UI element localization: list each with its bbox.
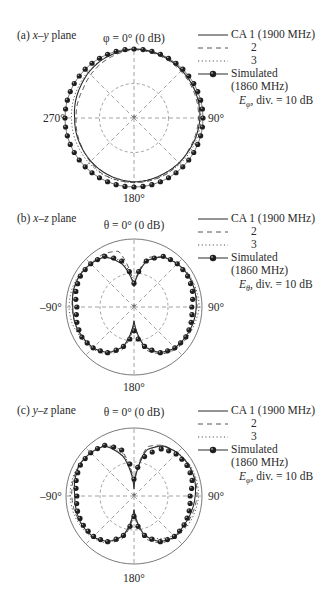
simulated-marker [180, 164, 185, 169]
simulated-marker [95, 446, 100, 451]
simulated-marker [97, 175, 102, 180]
simulated-marker [102, 443, 107, 448]
simulated-marker [68, 142, 73, 147]
legend-simulated-freq: (1860 MHz) [198, 456, 323, 469]
simulated-marker [189, 486, 194, 491]
simulated-marker [105, 179, 110, 184]
simulated-marker [173, 61, 178, 66]
simulated-marker [81, 523, 86, 528]
dotted-line-swatch [198, 432, 228, 442]
simulated-marker [186, 327, 191, 332]
grid-spoke [85, 69, 134, 118]
simulated-marker [78, 273, 83, 278]
simulated-marker [190, 297, 195, 302]
simulated-marker [121, 533, 126, 538]
simulated-marker [105, 539, 110, 544]
simulated-marker [188, 493, 193, 498]
panel-a-xy-plane: * (a) x–y plane φ = 0° (0 dB) 270° 90° 1… [0, 0, 323, 195]
simulated-marker [91, 345, 96, 350]
simulated-marker [186, 73, 191, 78]
simulated-marker [131, 328, 136, 333]
simulated-marker [74, 478, 79, 483]
simulated-marker [152, 255, 157, 260]
simulated-marker [149, 182, 154, 187]
simulated-marker [73, 486, 78, 491]
simulated-marker [165, 348, 170, 353]
simulated-marker [91, 534, 96, 539]
simulated-marker [179, 457, 184, 462]
simulated-marker [119, 258, 124, 263]
simulated-marker [131, 281, 136, 286]
panel-b-title: (b) x–z plane [17, 213, 76, 225]
solid-line-swatch [198, 214, 228, 224]
simulated-marker [191, 81, 196, 86]
svg-text:*: * [132, 303, 136, 312]
simulated-marker [140, 47, 145, 52]
legend-item-3: 3 [198, 54, 323, 67]
simulated-marker [74, 501, 79, 506]
simulated-marker [178, 340, 183, 345]
simulated-marker [72, 81, 77, 86]
legend-item-3: 3 [198, 430, 323, 443]
simulated-marker [105, 350, 110, 355]
simulated-marker [161, 254, 166, 259]
simulated-marker [127, 461, 132, 466]
simulated-marker [63, 106, 68, 111]
simulated-marker [74, 304, 79, 309]
dashed-line-swatch [198, 43, 228, 53]
simulated-marker [74, 320, 79, 325]
simulated-marker [149, 348, 154, 353]
legend-item-2: 2 [198, 41, 323, 54]
simulated-marker [102, 254, 107, 259]
legend-scale-note: Eφ, div. = 10 dB [198, 469, 323, 484]
simulated-marker [158, 539, 163, 544]
simulated-marker [127, 524, 132, 529]
series-dashed [76, 50, 199, 183]
simulated-marker [75, 470, 80, 475]
simulated-marker [127, 269, 132, 274]
simulated-marker [149, 537, 154, 542]
legend-simulated-freq: (1860 MHz) [198, 80, 323, 93]
panel-b-left-angle-label: –90° [40, 302, 62, 314]
simulated-marker [149, 49, 154, 54]
simulated-marker [76, 327, 81, 332]
simulated-marker [172, 534, 177, 539]
simulated-marker [131, 514, 136, 519]
panel-c-yz-plane: * (c) y–z plane θ = 0° (0 dB) –90° 90° 1… [0, 395, 323, 602]
legend-item-ca1: CA 1 (1900 MHz) [198, 212, 323, 225]
simulated-marker [142, 533, 147, 538]
dotted-line-swatch [198, 56, 228, 66]
simulated-marker [173, 451, 178, 456]
simulated-marker [83, 67, 88, 72]
simulated-marker [68, 89, 73, 94]
legend-item-ca1: CA 1 (1900 MHz) [198, 28, 323, 41]
simulated-marker [136, 269, 141, 274]
legend-item-3: 3 [198, 238, 323, 251]
legend-item-ca1: CA 1 (1900 MHz) [198, 404, 323, 417]
simulated-marker [189, 312, 194, 317]
panel-b-right-angle-label: 90° [208, 302, 224, 314]
simulated-marker [122, 47, 127, 52]
panel-c-right-angle-label: 90° [208, 491, 224, 503]
simulated-marker [83, 267, 88, 272]
simulated-marker [89, 170, 94, 175]
simulated-marker [74, 493, 79, 498]
simulated-marker [166, 175, 171, 180]
simulated-marker [188, 501, 193, 506]
legend-scale-note: Eφ, div. = 10 dB [198, 93, 323, 108]
simulated-marker [190, 478, 195, 483]
simulated-marker [158, 179, 163, 184]
simulated-marker [95, 257, 100, 262]
legend-item-2: 2 [198, 417, 323, 430]
simulated-marker [184, 515, 189, 520]
panel-a-title: (a) x–y plane [17, 30, 76, 42]
panel-b-legend: CA 1 (1900 MHz) 2 3 Simulated (1860 MHz)… [198, 212, 323, 292]
grid-spoke [134, 118, 183, 167]
simulated-marker [86, 529, 91, 534]
legend-item-simulated: Simulated [198, 443, 323, 456]
marker-line-swatch [198, 69, 228, 79]
simulated-marker [200, 124, 205, 129]
simulated-marker [131, 476, 136, 481]
simulated-marker [121, 344, 126, 349]
simulated-marker [140, 184, 145, 189]
